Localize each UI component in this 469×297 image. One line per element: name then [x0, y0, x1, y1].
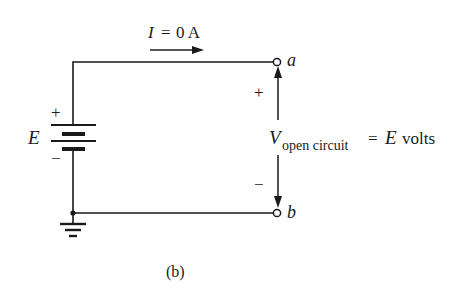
current-arrow-icon: [150, 46, 204, 54]
current-equals: =: [161, 23, 171, 42]
voltage-eq-sign: =: [368, 129, 378, 148]
battery-icon: [51, 125, 96, 149]
terminal-b-label: b: [287, 202, 296, 222]
terminal-a-icon: [273, 58, 280, 65]
circuit-wires: [73, 62, 273, 224]
terminal-b-icon: [273, 209, 280, 216]
junction-dot: [70, 210, 75, 215]
circuit-diagram: I = 0 A + E − a b +: [0, 0, 469, 297]
terminal-a-label: a: [287, 50, 296, 70]
current-value: 0 A: [176, 23, 201, 42]
voltage-minus: −: [254, 175, 264, 194]
current-label: I = 0 A: [147, 23, 201, 42]
battery-plus: +: [51, 103, 61, 122]
voltage-label: V open circuit = E volts: [269, 127, 435, 153]
voltage-eq-symbol: E: [384, 127, 397, 148]
source-label: E: [27, 127, 40, 148]
voltage-eq-unit: volts: [402, 129, 435, 148]
voltage-arrow-down-icon: [274, 155, 282, 208]
voltage-arrow-up-icon: [274, 66, 282, 120]
voltage-subscript: open circuit: [282, 138, 349, 153]
ground-icon: [60, 210, 86, 236]
voltage-symbol: V: [269, 127, 283, 148]
voltage-plus: +: [254, 83, 264, 102]
battery-minus: −: [51, 149, 61, 168]
figure-caption: (b): [166, 263, 185, 281]
current-symbol: I: [147, 23, 155, 42]
